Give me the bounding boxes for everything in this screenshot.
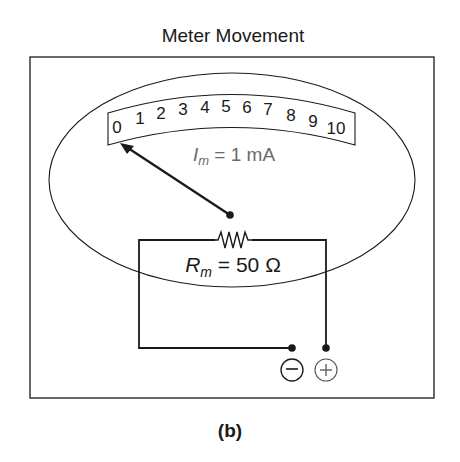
scale-label-2: 2: [156, 104, 165, 123]
meter-circuit: [139, 232, 326, 348]
meter-movement-diagram: Meter Movement 0 1 2 3 4 5 6 7 8 9 10 Im…: [0, 0, 460, 462]
current-label: Im = 1 mA: [193, 144, 275, 168]
resistance-symbol: R: [185, 253, 200, 276]
scale-label-6: 6: [242, 98, 251, 117]
scale-label-0: 0: [112, 118, 121, 137]
resistance-label: Rm = 50 Ω: [185, 253, 281, 280]
scale-label-3: 3: [178, 100, 187, 119]
scale-label-9: 9: [308, 112, 317, 131]
scale-label-7: 7: [263, 100, 272, 119]
positive-terminal-dot: [322, 344, 330, 352]
resistance-value: = 50 Ω: [212, 253, 281, 276]
current-value: = 1 mA: [209, 144, 275, 165]
scale-label-4: 4: [200, 98, 209, 117]
negative-terminal-dot: [288, 344, 296, 352]
needle-arrowhead-icon: [120, 143, 134, 154]
scale-band: [108, 95, 355, 146]
needle-pivot: [226, 211, 234, 219]
positive-terminal-icon: [315, 359, 337, 381]
scale-label-10: 10: [327, 119, 346, 138]
negative-terminal-icon: [281, 359, 303, 381]
figure-caption: (b): [218, 420, 242, 441]
scale-label-1: 1: [135, 109, 144, 128]
scale-label-8: 8: [286, 106, 295, 125]
scale-label-5: 5: [221, 97, 230, 116]
resistance-subscript: m: [200, 264, 212, 280]
diagram-title: Meter Movement: [162, 25, 305, 46]
current-subscript: m: [198, 153, 209, 168]
resistor-icon: [215, 232, 252, 248]
